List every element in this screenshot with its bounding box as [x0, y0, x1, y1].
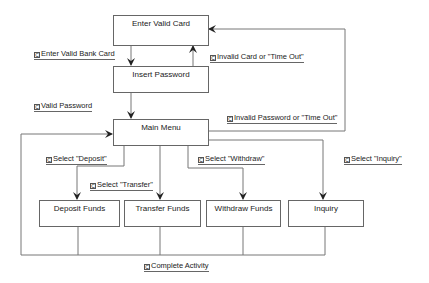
guard-checkbox-icon: C [227, 116, 233, 122]
transition-valid-password: CValid Password [34, 101, 92, 112]
state-withdraw-funds[interactable]: Withdraw Funds [206, 200, 281, 227]
guard-checkbox-icon: C [144, 264, 150, 270]
state-transfer-funds[interactable]: Transfer Funds [124, 200, 201, 227]
transition-enter-valid-bank-card: CEnter Valid Bank Card [34, 49, 115, 60]
guard-checkbox-icon: C [210, 55, 216, 61]
state-label: Deposit Funds [54, 204, 106, 213]
guard-checkbox-icon: C [198, 157, 204, 163]
transition-complete-activity: CComplete Activity [144, 261, 209, 272]
state-insert-password[interactable]: Insert Password [113, 66, 209, 93]
guard-checkbox-icon: C [344, 157, 350, 163]
transition-invalid-card: CInvalid Card or "Time Out" [210, 52, 304, 63]
state-label: Main Menu [141, 123, 181, 132]
state-label: Inquiry [314, 204, 338, 213]
guard-checkbox-icon: C [90, 183, 96, 189]
transition-select-inquiry: CSelect "Inquiry" [344, 154, 402, 165]
state-enter-valid-card[interactable]: Enter Valid Card [113, 15, 209, 46]
guard-checkbox-icon: C [34, 52, 40, 58]
state-main-menu[interactable]: Main Menu [113, 119, 209, 146]
state-label: Withdraw Funds [215, 204, 273, 213]
state-label: Enter Valid Card [132, 19, 190, 28]
state-label: Insert Password [132, 70, 189, 79]
transition-select-deposit: CSelect "Deposit" [46, 154, 107, 165]
guard-checkbox-icon: C [34, 104, 40, 110]
state-label: Transfer Funds [136, 204, 190, 213]
guard-checkbox-icon: C [46, 157, 52, 163]
state-deposit-funds[interactable]: Deposit Funds [39, 200, 120, 227]
connector-lines [0, 0, 429, 283]
state-inquiry[interactable]: Inquiry [288, 200, 364, 227]
transition-invalid-password: CInvalid Password or "Time Out" [227, 113, 337, 124]
transition-select-transfer: CSelect "Transfer" [90, 180, 153, 191]
transition-select-withdraw: CSelect "Withdraw" [198, 154, 265, 165]
